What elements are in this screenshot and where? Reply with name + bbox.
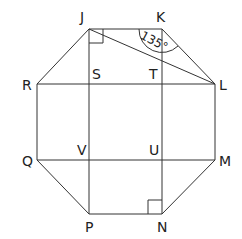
octagon-diagram: 135° J K L M N P Q R S T U V <box>0 0 242 239</box>
point-label-R: R <box>22 77 32 93</box>
right-angle-mark-N <box>148 200 162 214</box>
point-label-L: L <box>219 77 227 93</box>
point-label-J: J <box>79 9 84 25</box>
right-angle-mark-J <box>89 29 103 43</box>
point-label-N: N <box>157 219 167 235</box>
octagon-outline <box>37 29 215 214</box>
point-label-M: M <box>219 153 231 169</box>
point-label-S: S <box>92 66 101 82</box>
point-label-K: K <box>156 9 166 25</box>
point-label-U: U <box>149 142 159 158</box>
point-label-Q: Q <box>22 153 33 169</box>
point-label-V: V <box>77 142 87 158</box>
point-label-P: P <box>85 219 93 235</box>
point-label-T: T <box>148 66 158 82</box>
